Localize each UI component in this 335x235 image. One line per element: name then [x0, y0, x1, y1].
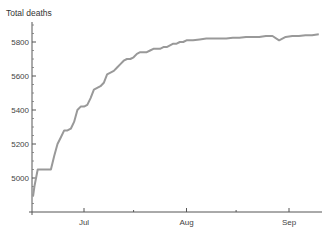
- y-tick-label: 5400: [11, 106, 29, 115]
- total-deaths-line: [33, 34, 319, 196]
- tick-marks: [32, 25, 289, 212]
- tick-labels: 50005200540056005800JulAugSep: [11, 38, 296, 227]
- axes: [29, 22, 322, 215]
- y-tick-label: 5600: [11, 72, 29, 81]
- line-plot: 50005200540056005800JulAugSep: [0, 0, 335, 235]
- chart-area: Total deaths 50005200540056005800JulAugS…: [0, 0, 335, 235]
- y-tick-label: 5800: [11, 38, 29, 47]
- x-tick-label: Sep: [282, 218, 297, 227]
- y-tick-label: 5200: [11, 140, 29, 149]
- x-tick-label: Jul: [79, 218, 89, 227]
- x-tick-label: Aug: [179, 218, 193, 227]
- y-tick-label: 5000: [11, 174, 29, 183]
- y-axis-title: Total deaths: [6, 8, 52, 18]
